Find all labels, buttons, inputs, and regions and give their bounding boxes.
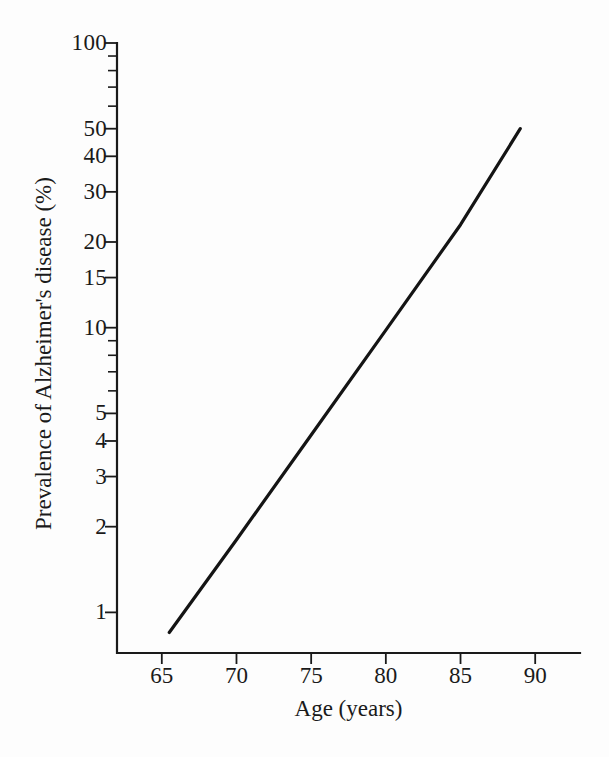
y-axis-title: Prevalence of Alzheimer's disease (%) (30, 49, 57, 659)
x-axis-tick-labels: 657075808590 (0, 0, 609, 757)
x-axis-title: Age (years) (117, 695, 580, 722)
x-tick-label-75: 75 (300, 663, 323, 689)
x-tick-label-70: 70 (225, 663, 248, 689)
x-tick-label-80: 80 (374, 663, 397, 689)
x-tick-label-90: 90 (524, 663, 547, 689)
chart-figure: 12345101520304050100 657075808590 Age (y… (0, 0, 609, 757)
x-tick-label-85: 85 (449, 663, 472, 689)
x-tick-label-65: 65 (150, 663, 173, 689)
